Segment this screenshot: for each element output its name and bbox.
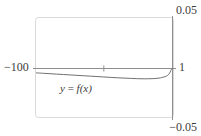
y-max-label: 0.05 [176,4,197,16]
plot-frame [36,18,174,118]
y-min-label: −0.05 [169,121,197,133]
curve-label-fx: f(x) [77,82,92,94]
curve-label: y = f(x) [60,83,92,94]
x-max-label: 1 [179,61,185,73]
x-min-label: −100 [4,61,29,73]
plot-canvas [0,0,201,136]
function-plot-figure: 0.05 −0.05 −100 1 y = f(x) [0,0,201,136]
curve-label-equals: = [65,82,77,94]
